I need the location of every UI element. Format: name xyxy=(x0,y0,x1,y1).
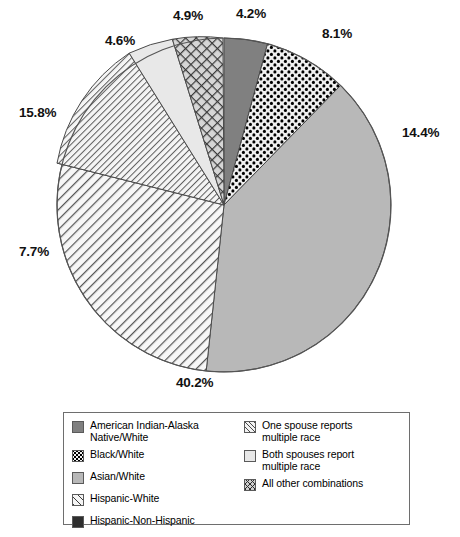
legend-item-hispanic-non-hispanic[interactable]: Hispanic-Non-Hispanic xyxy=(72,515,247,534)
slice-label-american-indian-alaska-native-white: 4.2% xyxy=(236,6,266,21)
legend-item-hispanic-white[interactable]: Hispanic-White xyxy=(72,493,247,512)
legend-label: All other combinations xyxy=(262,478,363,490)
legend-label: Black/White xyxy=(90,449,144,461)
slice-label-both-spouses-report-multiple-race: 4.6% xyxy=(105,33,135,48)
pie-chart-figure: 4.9% 4.2% 8.1% 4.6% 14.4% 15.8% 7.7% 40.… xyxy=(0,0,460,537)
legend-label: Hispanic-Non-Hispanic xyxy=(90,515,195,527)
legend-label-line2: multiple race xyxy=(262,432,352,444)
legend-item-all-other-combinations[interactable]: All other combinations xyxy=(244,478,409,497)
legend-label-line1: Hispanic-Non-Hispanic xyxy=(90,514,195,526)
legend-label: Both spouses report multiple race xyxy=(262,449,354,472)
legend-column-left: American Indian-Alaska Native/White Blac… xyxy=(72,420,247,537)
legend-label-line1: Black/White xyxy=(90,448,144,460)
legend-column-right: One spouse reports multiple race Both sp… xyxy=(244,420,409,500)
legend-label-line2: Native/White xyxy=(90,432,199,444)
legend-label: Asian/White xyxy=(90,471,145,483)
legend-item-american-indian-alaska-native-white[interactable]: American Indian-Alaska Native/White xyxy=(72,420,247,446)
slice-label-hispanic-non-hispanic: 7.7% xyxy=(19,244,49,259)
slice-label-asian-white: 14.4% xyxy=(402,125,439,140)
slice-label-one-spouse-reports-multiple-race: 15.8% xyxy=(19,105,56,120)
legend-label: Hispanic-White xyxy=(90,493,159,505)
legend-swatch-wide-diagonal-hatch-icon xyxy=(72,494,84,506)
legend-item-one-spouse-reports-multiple-race[interactable]: One spouse reports multiple race xyxy=(244,420,409,446)
legend-label: American Indian-Alaska Native/White xyxy=(90,420,199,443)
legend-label-line1: All other combinations xyxy=(262,477,363,489)
legend-swatch-dots-icon xyxy=(72,450,84,462)
legend-item-asian-white[interactable]: Asian/White xyxy=(72,471,247,490)
legend-label-line1: Asian/White xyxy=(90,470,145,482)
legend-swatch-crosshatch-icon xyxy=(244,479,256,491)
legend-swatch-solid-very-light-gray-icon xyxy=(244,450,256,462)
legend-label-line1: Both spouses report xyxy=(262,448,354,460)
legend-label: One spouse reports multiple race xyxy=(262,420,352,443)
pie-slices xyxy=(57,37,391,372)
slice-label-all-other-combinations: 4.9% xyxy=(173,8,203,23)
legend-swatch-solid-medium-gray-icon xyxy=(72,421,84,433)
legend-label-line2: multiple race xyxy=(262,461,354,473)
legend-item-black-white[interactable]: Black/White xyxy=(72,449,247,468)
slice-label-black-white: 8.1% xyxy=(322,26,352,41)
legend-label-line1: American Indian-Alaska xyxy=(90,419,199,431)
slice-label-hispanic-white: 40.2% xyxy=(176,375,213,390)
legend-label-line1: One spouse reports xyxy=(262,419,352,431)
legend-swatch-fine-diagonal-hatch-icon xyxy=(244,421,256,433)
chart-legend: American Indian-Alaska Native/White Blac… xyxy=(63,412,410,525)
legend-label-line1: Hispanic-White xyxy=(90,492,159,504)
legend-item-both-spouses-report-multiple-race[interactable]: Both spouses report multiple race xyxy=(244,449,409,475)
legend-swatch-solid-near-black-icon xyxy=(72,516,84,528)
legend-swatch-solid-light-gray-icon xyxy=(72,472,84,484)
